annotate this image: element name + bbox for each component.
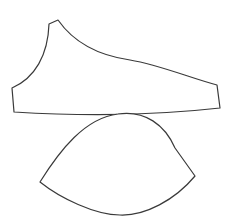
upper-pattern-piece	[12, 20, 220, 115]
lower-lens-piece	[40, 113, 195, 215]
pattern-diagram	[0, 0, 234, 224]
diagram-canvas	[0, 0, 234, 224]
